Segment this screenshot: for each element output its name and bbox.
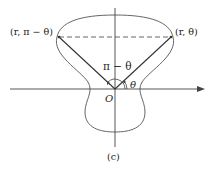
label-point-left: (r, π − θ) bbox=[10, 26, 53, 37]
point-left-dot bbox=[58, 36, 61, 39]
label-angle-theta: θ bbox=[130, 79, 136, 90]
axis-arrow-icon bbox=[197, 86, 205, 92]
polar-symmetry-diagram: (r, π − θ) (r, θ) π − θ θ O (c) bbox=[0, 0, 215, 174]
label-point-right: (r, θ) bbox=[175, 26, 198, 37]
label-angle-pi-minus-theta: π − θ bbox=[103, 60, 132, 72]
label-origin: O bbox=[105, 93, 113, 104]
figure-caption: (c) bbox=[107, 151, 120, 162]
point-right-dot bbox=[170, 36, 173, 39]
